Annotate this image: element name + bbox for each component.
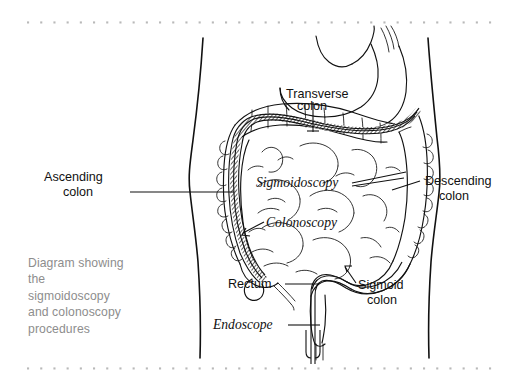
- label-transverse-colon-line2: colon: [297, 99, 327, 113]
- label-sigmoidoscopy: Sigmoidoscopy: [256, 172, 406, 190]
- label-sigmoidoscopy-text: Sigmoidoscopy: [256, 175, 339, 190]
- label-ascending-colon-line2: colon: [63, 185, 93, 199]
- label-colonoscopy-text: Colonoscopy: [266, 215, 338, 230]
- small-intestine-outline: [248, 143, 400, 279]
- colon-anatomy-illustration: Transverse colon Ascending colon Descend…: [0, 0, 523, 384]
- label-endoscope-text: Endoscope: [212, 317, 273, 332]
- label-rectum: Rectum: [228, 277, 318, 291]
- dotted-rule-bottom: [0, 367, 523, 370]
- label-ascending-colon: Ascending colon: [44, 170, 234, 199]
- leader-descending-colon: [392, 181, 420, 190]
- label-colonoscopy: Colonoscopy: [242, 215, 338, 236]
- label-sigmoid-colon: Sigmoid colon: [345, 266, 404, 307]
- label-sigmoid-colon-line1: Sigmoid: [358, 278, 404, 292]
- figure-page: Diagram showing the sigmoidoscopy and co…: [0, 0, 523, 384]
- label-descending-colon-line2: colon: [439, 189, 469, 203]
- label-ascending-colon-line1: Ascending: [44, 170, 103, 184]
- label-endoscope: Endoscope: [212, 317, 320, 332]
- label-sigmoid-colon-line2: colon: [367, 293, 397, 307]
- label-rectum-text: Rectum: [228, 277, 271, 291]
- label-descending-colon-line1: Descending: [425, 174, 492, 188]
- leader-colonoscopy: [243, 222, 264, 233]
